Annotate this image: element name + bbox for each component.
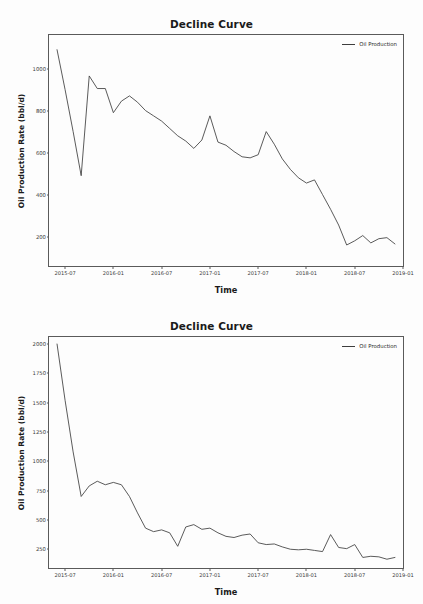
y-axis-tick-mark	[47, 373, 50, 374]
x-axis-tick-label: 2015-07	[54, 572, 75, 578]
x-axis-tick-label: 2018-07	[344, 572, 365, 578]
y-axis-tick-label: 2000	[33, 341, 46, 347]
y-axis-tick-label: 500	[36, 517, 46, 523]
x-axis-label: Time	[48, 587, 404, 597]
y-axis-tick-label: 1750	[33, 370, 46, 376]
y-axis-tick-mark	[47, 110, 50, 111]
x-axis-tick-mark	[65, 266, 66, 269]
x-axis-tick-mark	[113, 266, 114, 269]
figure-decline-curve-top: Decline Curve Oil Production Rate (bbl/d…	[0, 0, 423, 302]
y-axis-tick-mark	[47, 431, 50, 432]
y-axis-label-wrap: Oil Production Rate (bbl/d)	[14, 336, 28, 569]
legend-bottom: Oil Production	[342, 343, 397, 349]
y-axis-tick-mark	[47, 490, 50, 491]
y-axis-tick-mark	[47, 519, 50, 520]
x-axis-tick-mark	[403, 568, 404, 571]
y-axis-tick-label: 250	[36, 546, 46, 552]
plot-area-top: Oil Production 20040060080010002015-0720…	[48, 34, 404, 267]
x-axis-tick-label: 2019-01	[392, 572, 413, 578]
x-axis-tick-label: 2015-07	[54, 270, 75, 276]
x-axis-tick-label: 2018-07	[344, 270, 365, 276]
y-axis-label: Oil Production Rate (bbl/d)	[17, 93, 26, 208]
x-axis-tick-label: 2016-01	[103, 270, 124, 276]
x-axis-tick-mark	[258, 266, 259, 269]
y-axis-tick-mark	[47, 549, 50, 550]
x-axis-tick-mark	[354, 568, 355, 571]
x-axis-tick-mark	[161, 568, 162, 571]
oil-production-line	[57, 50, 395, 245]
x-axis-tick-label: 2018-01	[296, 572, 317, 578]
y-axis-tick-label: 1250	[33, 429, 46, 435]
y-axis-tick-label: 1000	[33, 66, 46, 72]
legend-line-icon	[342, 346, 355, 347]
x-axis-tick-mark	[65, 568, 66, 571]
x-axis-tick-label: 2017-01	[199, 572, 220, 578]
oil-production-line	[57, 344, 395, 559]
y-axis-tick-label: 1000	[33, 458, 46, 464]
series-plot	[49, 337, 403, 568]
x-axis-tick-mark	[209, 266, 210, 269]
x-axis-tick-mark	[161, 266, 162, 269]
y-axis-tick-mark	[47, 344, 50, 345]
x-axis-tick-mark	[209, 568, 210, 571]
chart-title: Decline Curve	[0, 18, 423, 30]
legend-top: Oil Production	[342, 41, 397, 47]
y-axis-tick-label: 600	[36, 150, 46, 156]
x-axis-tick-mark	[306, 568, 307, 571]
y-axis-tick-mark	[47, 402, 50, 403]
x-axis-tick-label: 2018-01	[296, 270, 317, 276]
x-axis-tick-label: 2017-07	[248, 572, 269, 578]
y-axis-label-wrap: Oil Production Rate (bbl/d)	[14, 34, 28, 267]
x-axis-tick-label: 2017-01	[199, 270, 220, 276]
figure-decline-curve-bottom: Decline Curve Oil Production Rate (bbl/d…	[0, 302, 423, 604]
y-axis-tick-mark	[47, 236, 50, 237]
x-axis-tick-label: 2019-01	[392, 270, 413, 276]
x-axis-tick-label: 2017-07	[248, 270, 269, 276]
x-axis-tick-mark	[258, 568, 259, 571]
y-axis-tick-label: 750	[36, 488, 46, 494]
x-axis-tick-mark	[403, 266, 404, 269]
y-axis-tick-mark	[47, 152, 50, 153]
x-axis-tick-mark	[113, 568, 114, 571]
x-axis-tick-label: 2016-07	[151, 572, 172, 578]
chart-title: Decline Curve	[0, 320, 423, 332]
x-axis-tick-mark	[354, 266, 355, 269]
y-axis-tick-label: 1500	[33, 400, 46, 406]
y-axis-label: Oil Production Rate (bbl/d)	[17, 395, 26, 510]
plot-area-bottom: Oil Production 2505007501000125015001750…	[48, 336, 404, 569]
legend-label: Oil Production	[359, 41, 397, 47]
legend-line-icon	[342, 44, 355, 45]
x-axis-label: Time	[48, 285, 404, 295]
y-axis-tick-mark	[47, 194, 50, 195]
x-axis-tick-label: 2016-01	[103, 572, 124, 578]
y-axis-tick-label: 200	[36, 234, 46, 240]
y-axis-tick-mark	[47, 461, 50, 462]
y-axis-tick-label: 400	[36, 192, 46, 198]
legend-label: Oil Production	[359, 343, 397, 349]
series-plot	[49, 35, 403, 266]
y-axis-tick-label: 800	[36, 108, 46, 114]
y-axis-tick-mark	[47, 68, 50, 69]
x-axis-tick-mark	[306, 266, 307, 269]
x-axis-tick-label: 2016-07	[151, 270, 172, 276]
